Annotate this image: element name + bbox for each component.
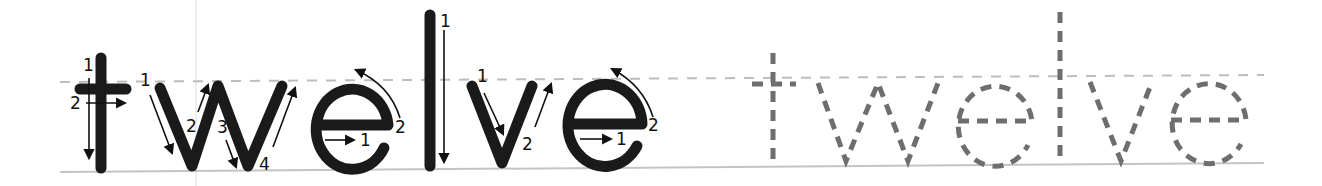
num-e1-1: 1 — [360, 130, 371, 150]
letter-w-dashed — [818, 83, 938, 161]
num-w1: 1 — [140, 70, 151, 90]
letter-e1-dashed — [958, 86, 1032, 166]
letter-e2-solid — [568, 84, 642, 166]
num-w3: 3 — [217, 117, 228, 137]
num-l1: 1 — [440, 11, 451, 31]
num-w2: 2 — [186, 116, 197, 136]
num-e2-2: 2 — [648, 115, 659, 135]
num-e1-2: 2 — [395, 117, 406, 137]
midline-dashed — [60, 75, 1264, 82]
num-v2: 2 — [522, 134, 533, 154]
num-e2-1: 1 — [616, 129, 627, 149]
handwriting-worksheet: 1 2 1 2 3 4 1 2 1 1 2 1 2 — [0, 0, 1322, 186]
num-v1: 1 — [477, 66, 488, 86]
baseline — [60, 163, 1264, 172]
num-t1: 1 — [83, 55, 94, 75]
letter-t-dashed — [752, 53, 796, 162]
num-w4: 4 — [259, 154, 270, 174]
letter-e1-solid — [316, 89, 388, 169]
dashed-word — [752, 12, 1246, 166]
num-t2: 2 — [70, 93, 81, 113]
letter-v-dashed — [1090, 82, 1152, 161]
letter-e2-dashed — [1171, 84, 1246, 164]
arrow-v2 — [535, 84, 551, 127]
